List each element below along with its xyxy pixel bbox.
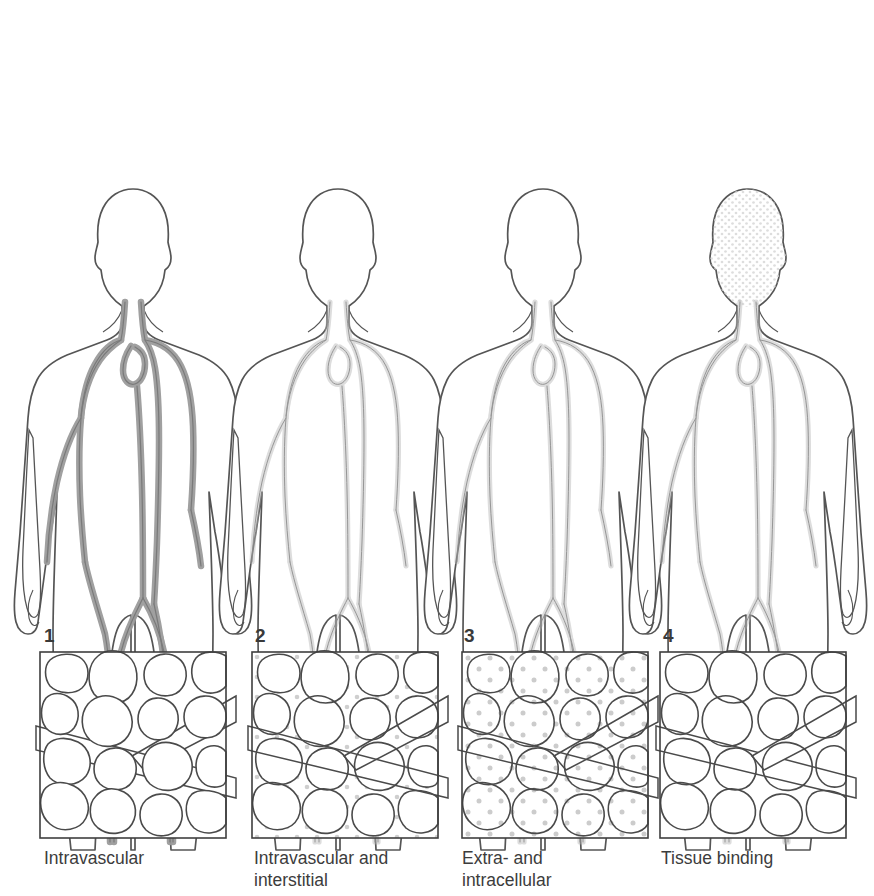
tissue-panel-4 bbox=[654, 646, 856, 846]
tissue-panel-3 bbox=[458, 651, 658, 838]
panel-caption-3: Extra- and intracellular bbox=[462, 847, 652, 892]
tissue-panel-2 bbox=[246, 646, 448, 846]
distribution-figure: 1 2 3 4 Intravascular Intravascular and … bbox=[0, 0, 874, 896]
panel-number-3: 3 bbox=[464, 626, 475, 645]
figure-canvas bbox=[0, 0, 874, 896]
panel-caption-4: Tissue binding bbox=[661, 847, 861, 869]
panel-number-4: 4 bbox=[663, 626, 674, 645]
panel-number-2: 2 bbox=[255, 626, 266, 645]
panel-caption-1: Intravascular bbox=[44, 847, 244, 869]
panel-number-1: 1 bbox=[44, 626, 55, 645]
tissue-panel-1 bbox=[34, 646, 236, 846]
panel-caption-2: Intravascular and interstitial bbox=[254, 847, 454, 892]
